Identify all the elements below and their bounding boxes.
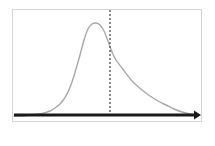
- density-curve-group: [14, 23, 198, 116]
- figure-root: [0, 0, 215, 146]
- x-axis-arrow-head: [194, 111, 201, 120]
- distribution-chart: [0, 0, 215, 146]
- density-curve-path: [14, 23, 198, 116]
- x-axis-arrow-group: [14, 111, 201, 120]
